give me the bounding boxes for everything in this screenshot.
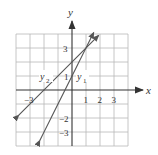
svg-text:1: 1 xyxy=(83,77,87,85)
graph-figure: y x −3 1 2 3 3 1 −2 −3 y 2 y 1 xyxy=(0,0,158,155)
tick-x-neg3: −3 xyxy=(24,95,34,105)
y-axis-label: y xyxy=(67,6,73,18)
x-axis-label: x xyxy=(145,84,151,96)
label-y1: y 1 xyxy=(76,70,89,85)
tick-y-1: 1 xyxy=(64,72,69,82)
tick-x-1: 1 xyxy=(84,95,89,105)
tick-y-3: 3 xyxy=(63,44,68,54)
tick-x-2: 2 xyxy=(98,95,103,105)
svg-text:2: 2 xyxy=(46,77,50,85)
tick-y-neg2: −2 xyxy=(59,114,69,124)
tick-y-neg3: −3 xyxy=(59,128,69,138)
coordinate-plane: y x −3 1 2 3 3 1 −2 −3 y 2 y 1 xyxy=(0,0,158,155)
svg-text:y: y xyxy=(76,71,82,82)
svg-text:y: y xyxy=(39,71,45,82)
tick-x-3: 3 xyxy=(112,95,117,105)
